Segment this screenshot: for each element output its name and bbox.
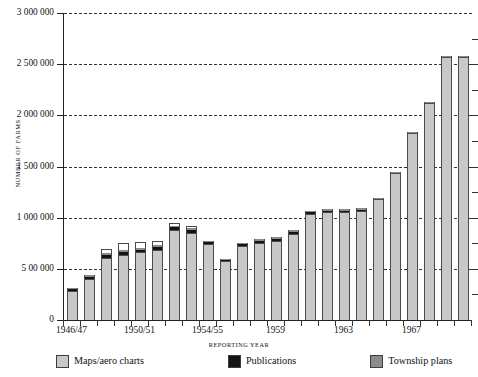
bar-segment-maps [305,214,316,320]
bar [135,242,146,320]
bar-segment-maps [135,252,146,320]
bar [271,237,282,320]
y-axis-tick [57,269,64,270]
bar [84,274,95,320]
bar-segment-maps [84,279,95,320]
y-axis-tick-label: 5 00 000 [21,264,54,273]
bar [118,243,129,320]
x-axis-tick [454,320,455,326]
x-axis-tick [437,320,438,326]
bar-segment-maps [186,233,197,320]
bar [339,209,350,320]
bar-segment-maps [254,243,265,320]
legend-label-publications: Publications [246,356,296,366]
x-axis-tick-label: 1967 [402,325,421,335]
y-axis-tick [57,115,64,116]
legend-label-maps-aero-charts: Maps/aero charts [74,356,144,366]
y-axis-tick-label: 1 000 000 [17,213,54,222]
bar-segment-maps [407,133,418,320]
bar [441,56,452,320]
x-axis-tick [471,320,472,326]
x-axis-title: REPORTING YEAR [0,341,478,348]
y-axis-tick-label: 1 500 000 [17,162,54,171]
legend-item-maps-aero-charts: Maps/aero charts [56,355,144,368]
x-axis-tick-label: 1950/51 [124,325,155,335]
x-axis-tick [233,320,234,326]
chart-legend: Maps/aero chartsPublicationsTownship pla… [56,355,468,368]
bar-segment-maps [271,241,282,320]
right-axis-tick [472,141,478,142]
bar [373,198,384,320]
plot-area [63,13,472,321]
legend-item-publications: Publications [228,355,296,368]
legend-item-township-plans: Township plans [370,355,452,368]
bar-segment-air [118,243,129,250]
bar [254,239,265,320]
bar-series-group [64,13,472,320]
right-axis-tick [472,115,478,116]
right-axis-tick [472,294,478,295]
legend-label-township-plans: Township plans [388,356,452,366]
bar-segment-maps [356,211,367,320]
right-axis-tick [472,39,478,40]
bar-segment-maps [322,212,333,320]
bar [67,288,78,320]
legend-swatch-township-plans [370,355,383,368]
right-axis-tick [472,64,478,65]
right-axis-tick [472,218,478,219]
bar-segment-maps [458,57,469,320]
y-axis-tick [57,167,64,168]
legend-swatch-publications [228,355,241,368]
bar-segment-maps [339,212,350,320]
bar [152,241,163,320]
x-axis-tick [318,320,319,326]
x-axis-tick [165,320,166,326]
bar-segment-maps [118,255,129,320]
bar [237,243,248,320]
right-axis-tick [472,192,478,193]
y-axis-tick-label: 0 [49,315,54,324]
y-axis-tick [57,64,64,65]
bar [322,209,333,320]
x-axis-tick [386,320,387,326]
bar [101,249,112,320]
x-axis-tick [301,320,302,326]
y-axis-tick [57,13,64,14]
x-axis-tick [97,320,98,326]
bar-segment-maps [169,230,180,320]
bar-segment-maps [220,261,231,320]
bar [458,56,469,320]
chart-figure: NUMBER OF FARMS 05 00 0001 000 0001 500 … [0,0,478,377]
bar [186,226,197,320]
y-axis-title: NUMBER OF FARMS [14,84,21,224]
bar [220,259,231,320]
x-axis-tick [250,320,251,326]
x-axis-tick-label: 1954/55 [192,325,223,335]
bar-segment-maps [373,199,384,320]
y-axis-tick-label: 3 000 000 [17,8,54,17]
bar [169,223,180,320]
right-axis-tick [472,269,478,270]
x-axis-tick [182,320,183,326]
y-axis-tick [57,218,64,219]
right-axis-tick [472,90,478,91]
bar-segment-maps [441,57,452,320]
bar [203,241,214,320]
bar-segment-maps [390,173,401,320]
x-axis-tick-label: 1959 [266,325,285,335]
y-axis-tick-label: 2 500 000 [17,59,54,68]
x-axis-tick-label: 1946/47 [56,325,87,335]
bar-segment-maps [237,246,248,320]
legend-swatch-maps-aero-charts [56,355,69,368]
bar [407,132,418,320]
x-axis-tick-label: 1963 [334,325,353,335]
bar-segment-maps [152,250,163,320]
right-axis-tick [472,243,478,244]
bar [288,230,299,320]
bar [390,172,401,320]
bar [356,208,367,320]
bar-segment-maps [101,258,112,320]
right-axis-tick [472,167,478,168]
bar-segment-maps [203,244,214,320]
x-axis-tick [114,320,115,326]
